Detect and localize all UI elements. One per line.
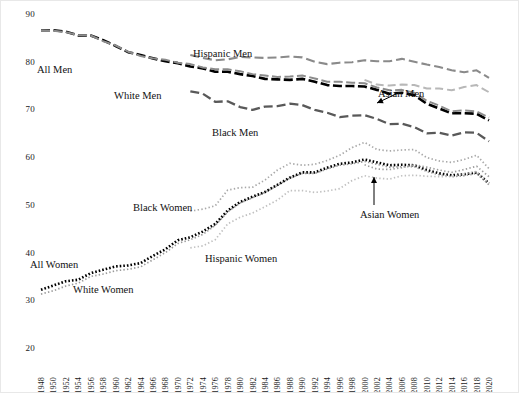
series-label-black-women: Black Women [133,202,192,213]
annotation-arrows [1,1,519,393]
series-label-white-women: White Women [73,284,134,295]
series-label-white-men: White Men [114,90,162,101]
series-label-all-women: All Women [30,259,78,270]
series-label-asian-women: Asian Women [360,209,419,220]
series-label-asian-men: Asian Men [378,88,424,99]
series-label-hispanic-women: Hispanic Women [205,253,277,264]
series-label-all-men: All Men [37,64,72,75]
chart-figure: 9080706050403020 19481950195219541956195… [0,0,519,393]
series-label-black-men: Black Men [212,127,258,138]
series-label-hispanic-men: Hispanic Men [193,48,252,59]
